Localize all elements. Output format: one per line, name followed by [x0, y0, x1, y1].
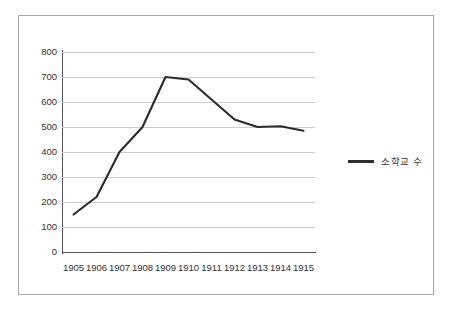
- legend-label: 소학교 수: [381, 154, 422, 168]
- y-tick-label: 700: [17, 72, 57, 82]
- x-tick-label: 1915: [293, 262, 314, 274]
- x-tick-label: 1910: [178, 262, 199, 274]
- x-tick-label: 1908: [132, 262, 153, 274]
- y-tick-label: 100: [17, 222, 57, 232]
- x-tick-label: 1906: [86, 262, 107, 274]
- chart-legend: 소학교 수: [348, 152, 422, 170]
- y-axis-tick-labels: 0100200300400500600700800: [12, 52, 57, 252]
- y-tick-label: 500: [17, 122, 57, 132]
- x-tick-label: 1907: [109, 262, 130, 274]
- x-tick-label: 1914: [270, 262, 291, 274]
- legend-line-swatch: [348, 160, 374, 163]
- y-tick-label: 300: [17, 172, 57, 182]
- y-tick-label: 600: [17, 97, 57, 107]
- x-tick-label: 1911: [201, 262, 221, 274]
- y-tick-label: 200: [17, 197, 57, 207]
- plot-area: [62, 52, 315, 252]
- y-tick-label: 800: [17, 47, 57, 57]
- y-tick-label: 0: [17, 247, 57, 257]
- line-series-soghakgyo-su: [62, 52, 315, 252]
- x-axis-tick-labels: 1905190619071908190919101911191219131914…: [62, 262, 315, 276]
- x-tick-label: 1912: [224, 262, 245, 274]
- x-tick-label: 1909: [155, 262, 176, 274]
- x-tick-label: 1905: [63, 262, 84, 274]
- x-tick-label: 1913: [247, 262, 268, 274]
- chart-figure: 0100200300400500600700800 19051906190719…: [0, 0, 452, 313]
- y-tick-label: 400: [17, 147, 57, 157]
- x-axis-line: [62, 252, 316, 253]
